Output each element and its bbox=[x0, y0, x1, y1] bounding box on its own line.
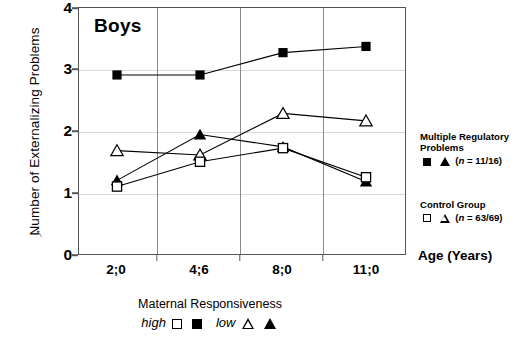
filled-triangle-icon bbox=[194, 129, 206, 140]
open-square-icon bbox=[278, 144, 287, 153]
data-point bbox=[195, 157, 204, 166]
data-point bbox=[278, 48, 287, 57]
legend-control-group: Control Group (n = 63/69) bbox=[420, 199, 503, 223]
data-point bbox=[361, 173, 370, 182]
filled-square-icon bbox=[195, 70, 204, 79]
figure-root: Number of Externalizing Problems ↑ 0 1 2… bbox=[0, 0, 532, 349]
filled-square-icon bbox=[278, 48, 287, 57]
legend-multiple-regulatory-problems: Multiple Regulatory Problems (n = 11/16) bbox=[420, 131, 509, 167]
x-tick-4-6: 4;6 bbox=[189, 262, 209, 277]
filled-square-icon bbox=[423, 158, 431, 166]
x-tick-11-0: 11;0 bbox=[353, 262, 379, 277]
legend-control-markers: (n = 63/69) bbox=[420, 212, 503, 223]
series-line-1 bbox=[117, 134, 366, 181]
legend-mrp-title-line2: Problems bbox=[420, 142, 509, 153]
plot-area: Boys bbox=[78, 7, 406, 255]
data-point bbox=[112, 182, 121, 191]
y-tick-1: 1 bbox=[63, 184, 72, 202]
x-axis-label: Age (Years) bbox=[418, 248, 492, 263]
caption-maternal-responsiveness: Maternal Responsiveness bbox=[0, 297, 420, 311]
data-point bbox=[361, 42, 370, 51]
filled-triangle-icon bbox=[264, 318, 276, 329]
open-triangle-icon bbox=[242, 318, 254, 329]
open-square-icon bbox=[112, 182, 121, 191]
series-line-2 bbox=[117, 113, 366, 155]
open-square-icon bbox=[195, 157, 204, 166]
y-tick-0: 0 bbox=[63, 246, 72, 264]
y-tick-2: 2 bbox=[63, 122, 72, 140]
data-point bbox=[111, 145, 123, 156]
filled-triangle-icon bbox=[440, 157, 450, 166]
open-square-icon bbox=[423, 214, 431, 222]
filled-square-icon bbox=[192, 319, 202, 329]
legend-control-n: (n = 63/69) bbox=[455, 212, 502, 223]
data-point bbox=[112, 70, 121, 79]
data-point bbox=[277, 108, 289, 119]
x-tick-2-0: 2;0 bbox=[106, 262, 126, 277]
open-triangle-icon bbox=[111, 145, 123, 156]
data-point bbox=[278, 144, 287, 153]
legend-mrp-markers: (n = 11/16) bbox=[420, 155, 509, 166]
legend-mrp-title-line1: Multiple Regulatory bbox=[420, 131, 509, 142]
caption-marker-key: high low bbox=[0, 315, 420, 330]
open-triangle-icon bbox=[277, 108, 289, 119]
open-triangle-icon bbox=[440, 214, 450, 223]
x-tick-8-0: 8;0 bbox=[272, 262, 292, 277]
series-line-3 bbox=[117, 148, 366, 186]
data-point bbox=[194, 129, 206, 140]
open-square-icon bbox=[361, 173, 370, 182]
y-tick-3: 3 bbox=[63, 60, 72, 78]
series-line-0 bbox=[117, 46, 366, 75]
y-tick-4: 4 bbox=[63, 0, 72, 17]
legend-mrp-n: (n = 11/16) bbox=[455, 155, 502, 166]
open-square-icon bbox=[172, 319, 182, 329]
series-layer bbox=[79, 8, 407, 256]
caption-high-label: high bbox=[141, 315, 166, 330]
footnote-line bbox=[78, 340, 478, 346]
data-point bbox=[195, 70, 204, 79]
filled-square-icon bbox=[112, 70, 121, 79]
filled-square-icon bbox=[361, 42, 370, 51]
legend-control-title: Control Group bbox=[420, 199, 503, 210]
caption-low-label: low bbox=[216, 315, 236, 330]
